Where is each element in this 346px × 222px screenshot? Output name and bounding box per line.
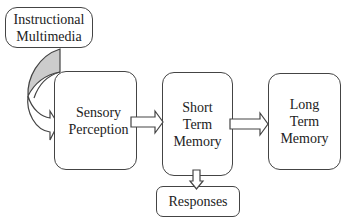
node-label: Short Term Memory (173, 99, 221, 150)
node-sensory-perception: Sensory Perception (54, 71, 137, 170)
node-short-term-memory: Short Term Memory (162, 72, 233, 176)
node-label: Sensory Perception (63, 104, 129, 138)
node-long-term-memory: Long Term Memory (268, 73, 341, 170)
node-label: Long Term Memory (280, 96, 328, 147)
node-label: Instructional Multimedia (14, 11, 85, 45)
node-responses: Responses (156, 186, 240, 217)
node-label: Responses (168, 193, 227, 210)
node-instructional-multimedia: Instructional Multimedia (5, 7, 93, 48)
